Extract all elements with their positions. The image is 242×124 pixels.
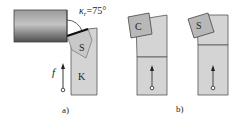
feed-origin-right xyxy=(211,86,215,90)
feed-origin xyxy=(61,88,65,92)
figure-b-left: C xyxy=(128,13,167,95)
feed-label: f xyxy=(52,66,57,78)
turning-tool-diagram: κr=75° S K f a) C S b) xyxy=(0,0,242,124)
workpiece xyxy=(14,10,67,42)
insert-s-b-label: S xyxy=(196,20,202,31)
caption-a: a) xyxy=(62,105,69,115)
angle-label: κr=75° xyxy=(79,5,106,18)
insert-label: S xyxy=(79,42,85,53)
feed-origin-left xyxy=(150,86,154,90)
angle-arc xyxy=(67,20,82,31)
figure-a: κr=75° S K f a) xyxy=(14,5,106,115)
insert-c-label: C xyxy=(135,21,142,32)
holder-label: K xyxy=(78,71,86,82)
figure-b-right: S xyxy=(188,13,228,95)
feed-arrowhead xyxy=(61,63,65,69)
caption-b: b) xyxy=(176,104,184,114)
